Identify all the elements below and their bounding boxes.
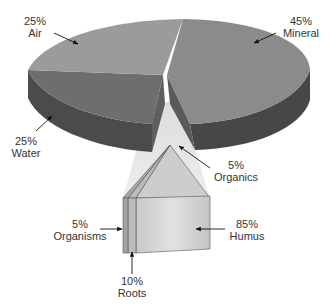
organisms-name: Organisms [50,230,110,242]
mineral-name: Mineral [276,27,326,39]
roots-percent: 10% [112,275,152,287]
humus-percent: 85% [222,218,272,230]
roots-name: Roots [112,287,152,299]
water-arrow [36,116,52,131]
roots-segment [128,198,136,253]
organisms-percent: 5% [50,218,110,230]
humus-label: 85% Humus [222,218,272,242]
mineral-percent: 45% [276,15,326,27]
air-label: 25% Air [16,15,54,39]
water-percent: 25% [5,135,47,147]
water-label: 25% Water [5,135,47,159]
organics-percent: 5% [208,159,264,171]
humus-segment [136,196,210,253]
organisms-segment [123,198,128,253]
humus-name: Humus [222,230,272,242]
air-name: Air [16,27,54,39]
organics-label: 5% Organics [208,159,264,183]
water-name: Water [5,147,47,159]
roots-label: 10% Roots [112,275,152,299]
soil-composition-diagram [0,0,330,307]
mineral-label: 45% Mineral [276,15,326,39]
organisms-label: 5% Organisms [50,218,110,242]
air-percent: 25% [16,15,54,27]
organics-name: Organics [208,171,264,183]
